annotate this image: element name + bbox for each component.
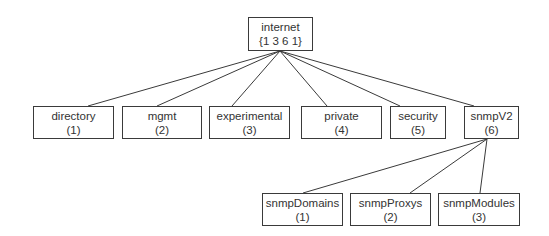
edge-internet-experimental: [232, 51, 280, 106]
node-oid: (1): [295, 210, 309, 224]
node-oid: (2): [383, 210, 397, 224]
edge-internet-mgmt: [157, 51, 280, 106]
node-security: security (5): [390, 106, 446, 139]
node-snmpproxys: snmpProxys (2): [350, 193, 431, 226]
node-oid: (3): [242, 123, 256, 137]
node-oid: (6): [484, 123, 498, 137]
node-oid: (2): [155, 123, 169, 137]
node-private: private (4): [301, 106, 382, 139]
node-label: snmpModules: [443, 196, 515, 210]
node-directory: directory (1): [33, 106, 114, 139]
node-oid: (5): [411, 123, 425, 137]
node-oid: (3): [472, 210, 486, 224]
node-oid: (1): [66, 123, 80, 137]
edge-internet-security: [280, 51, 400, 106]
node-label: snmpProxys: [359, 196, 422, 210]
edge-snmpv2-snmpproxys: [410, 139, 487, 193]
node-label: snmpDomains: [266, 196, 340, 210]
edge-internet-snmpv2: [280, 51, 474, 106]
node-label: internet: [261, 20, 299, 34]
node-snmpdomains: snmpDomains (1): [262, 193, 343, 226]
node-label: mgmt: [148, 109, 177, 123]
node-experimental: experimental (3): [209, 106, 290, 139]
node-oid: {1 3 6 1}: [259, 34, 302, 48]
node-label: security: [398, 109, 438, 123]
node-label: snmpV2: [470, 109, 512, 123]
node-internet: internet {1 3 6 1}: [248, 17, 313, 51]
node-label: directory: [51, 109, 95, 123]
node-label: private: [324, 109, 359, 123]
node-oid: (4): [334, 123, 348, 137]
node-snmpmodules: snmpModules (3): [438, 193, 520, 226]
node-mgmt: mgmt (2): [122, 106, 202, 139]
node-snmpv2: snmpV2 (6): [464, 106, 519, 139]
edge-snmpv2-snmpdomains: [303, 139, 487, 193]
edge-internet-directory: [88, 51, 280, 106]
edge-snmpv2-snmpmodules: [480, 139, 487, 193]
node-label: experimental: [217, 109, 283, 123]
edge-internet-private: [280, 51, 327, 106]
